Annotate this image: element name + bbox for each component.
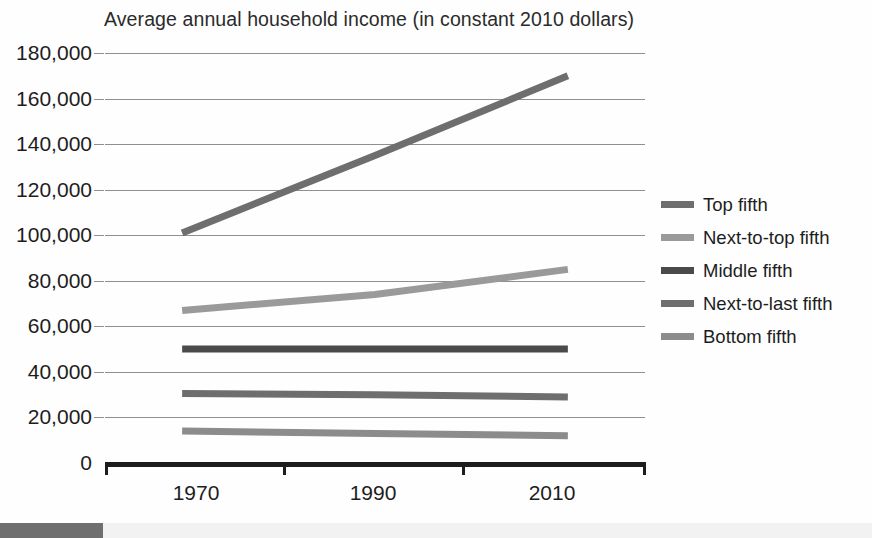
x-axis-tick-1 [283,462,286,475]
y-axis-label-20000: 20,000 [0,405,92,429]
y-tick-mark-140000 [94,144,104,145]
y-axis-label-140000: 140,000 [0,132,92,156]
legend-swatch-bottom-fifth [661,333,694,340]
legend-swatch-next-to-top-fifth [661,234,694,241]
series-line-next-to-top-fifth [182,269,568,310]
y-tick-mark-180000 [94,53,104,54]
legend-label-next-to-top-fifth: Next-to-top fifth [703,227,829,249]
y-tick-mark-100000 [94,235,104,236]
x-axis-label-1990: 1990 [350,481,397,505]
y-tick-mark-40000 [94,372,104,373]
y-axis-label-60000: 60,000 [0,314,92,338]
y-tick-mark-120000 [94,190,104,191]
y-tick-mark-60000 [94,326,104,327]
legend-item-top-fifth[interactable]: Top fifth [661,188,867,221]
legend-swatch-next-to-last-fifth [661,300,694,307]
scan-artifact-light-bar [103,523,872,538]
legend-swatch-middle-fifth [661,267,694,274]
chart-figure: Average annual household income (in cons… [0,0,872,538]
x-axis-label-1970: 1970 [173,481,220,505]
x-axis-left-cap [105,462,108,475]
legend-item-next-to-last-fifth[interactable]: Next-to-last fifth [661,287,867,320]
series-line-top-fifth [182,76,568,233]
y-axis-tick-labels: 180,000160,000140,000120,000100,00080,00… [0,53,92,463]
y-tick-mark-20000 [94,417,104,418]
x-axis-line [105,462,646,467]
x-axis-right-cap [643,462,646,475]
chart-legend: Top fifthNext-to-top fifthMiddle fifthNe… [661,188,867,353]
series-line-next-to-last-fifth [182,394,568,397]
legend-label-top-fifth: Top fifth [703,194,768,216]
legend-swatch-top-fifth [661,201,694,208]
chart-title: Average annual household income (in cons… [104,8,634,31]
y-axis-label-0: 0 [0,451,92,475]
legend-label-bottom-fifth: Bottom fifth [703,326,797,348]
y-axis-label-120000: 120,000 [0,178,92,202]
y-tick-mark-80000 [94,281,104,282]
y-axis-label-40000: 40,000 [0,360,92,384]
x-axis-label-2010: 2010 [529,481,576,505]
legend-label-next-to-last-fifth: Next-to-last fifth [703,293,833,315]
y-tick-mark-160000 [94,99,104,100]
legend-item-next-to-top-fifth[interactable]: Next-to-top fifth [661,221,867,254]
y-axis-label-80000: 80,000 [0,269,92,293]
scan-artifact-dark-bar [0,523,103,538]
y-axis-label-180000: 180,000 [0,41,92,65]
series-line-bottom-fifth [182,431,568,436]
legend-label-middle-fifth: Middle fifth [703,260,792,282]
x-axis-tick-2 [462,462,465,475]
series-lines [105,53,645,463]
y-axis-label-100000: 100,000 [0,223,92,247]
y-axis-label-160000: 160,000 [0,87,92,111]
legend-item-bottom-fifth[interactable]: Bottom fifth [661,320,867,353]
legend-item-middle-fifth[interactable]: Middle fifth [661,254,867,287]
